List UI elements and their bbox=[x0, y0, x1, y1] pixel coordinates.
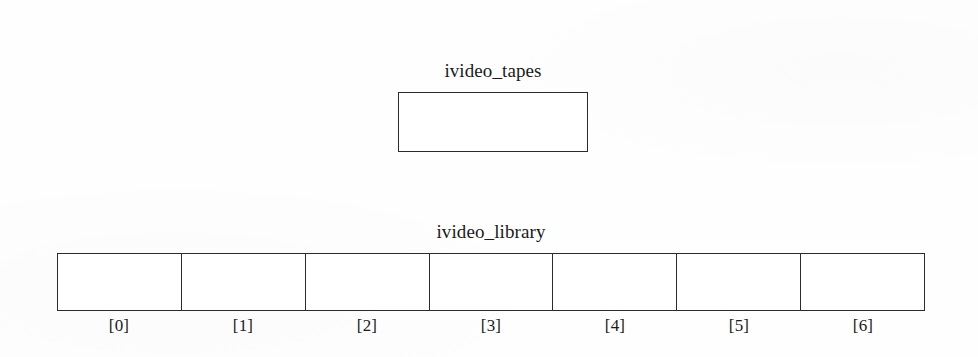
array-cells-row bbox=[57, 253, 925, 311]
array-index-label: [5] bbox=[677, 314, 801, 338]
array-cell bbox=[430, 254, 554, 310]
array-cell bbox=[677, 254, 801, 310]
scalar-variable-group: ivideo_tapes bbox=[398, 58, 588, 152]
array-diagram-figure: ivideo_tapes ivideo_library [0] [1] [2] … bbox=[0, 0, 978, 357]
array-cell bbox=[182, 254, 306, 310]
array-cell bbox=[553, 254, 677, 310]
array-index-label: [3] bbox=[429, 314, 553, 338]
scalar-variable-label: ivideo_tapes bbox=[398, 58, 588, 84]
scalar-variable-box bbox=[398, 92, 588, 152]
array-index-label: [4] bbox=[553, 314, 677, 338]
array-index-label: [2] bbox=[305, 314, 429, 338]
array-variable-group: ivideo_library [0] [1] [2] [3] [4] [5] [… bbox=[57, 219, 925, 338]
array-cell bbox=[801, 254, 924, 310]
array-variable-label: ivideo_library bbox=[57, 219, 925, 245]
array-cell bbox=[58, 254, 182, 310]
array-cell bbox=[306, 254, 430, 310]
array-index-label: [0] bbox=[57, 314, 181, 338]
array-index-labels-row: [0] [1] [2] [3] [4] [5] [6] bbox=[57, 314, 925, 338]
array-index-label: [6] bbox=[801, 314, 925, 338]
array-index-label: [1] bbox=[181, 314, 305, 338]
